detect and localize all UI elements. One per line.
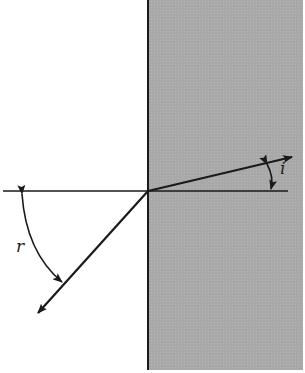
- angle-arc-r: [22, 194, 62, 282]
- label-r: r: [16, 236, 24, 256]
- label-i: i: [280, 158, 285, 178]
- reflected-ray: [38, 191, 148, 313]
- reflection-diagram: [0, 0, 305, 373]
